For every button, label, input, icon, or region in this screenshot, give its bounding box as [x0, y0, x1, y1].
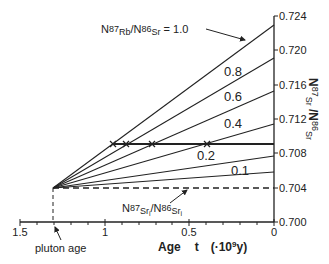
x-tick-0: 0: [271, 226, 277, 238]
y-axis: [274, 16, 278, 222]
y-tick-0.716: 0.716: [279, 79, 307, 91]
x-tick-labels: 1.5 1 0.5 0: [12, 226, 277, 238]
label-0.6: 0.6: [224, 89, 242, 104]
x-tick-1: 1: [102, 226, 108, 238]
label-0.1: 0.1: [231, 163, 249, 178]
arrow-to-pluton-age: [55, 227, 61, 240]
y-tick-0.724: 0.724: [279, 10, 307, 22]
rb-sr-1.0-annotation: N87Rb/N86Sr = 1.0: [101, 23, 188, 37]
label-0.8: 0.8: [224, 64, 242, 79]
y-tick-0.708: 0.708: [279, 147, 307, 159]
label-0.2: 0.2: [197, 148, 215, 163]
initial-ratio-annotation: N87Sri/N86Sri: [122, 202, 183, 217]
x-axis-title: Aget(·109y): [158, 240, 247, 254]
arrow-to-initial-ratio: [170, 190, 187, 203]
x-tick-0.5: 0.5: [181, 226, 196, 238]
y-tick-0.700: 0.700: [279, 216, 307, 228]
y-tick-0.720: 0.720: [279, 44, 307, 56]
isochron-chart: 1.5 1 0.5 0 0.724 0.720 0.716 0.712 0.70…: [0, 0, 329, 264]
x-axis: [20, 219, 274, 226]
line-rb-sr-0.4: [53, 124, 274, 188]
label-0.4: 0.4: [224, 116, 242, 131]
x-tick-1.5: 1.5: [12, 226, 27, 238]
arrow-to-line-1.0: [206, 29, 245, 40]
pluton-age-annotation: pluton age: [35, 242, 86, 254]
y-tick-labels: 0.724 0.720 0.716 0.712 0.708 0.704 0.70…: [279, 10, 307, 228]
y-tick-0.712: 0.712: [279, 113, 307, 125]
y-tick-0.704: 0.704: [279, 182, 307, 194]
